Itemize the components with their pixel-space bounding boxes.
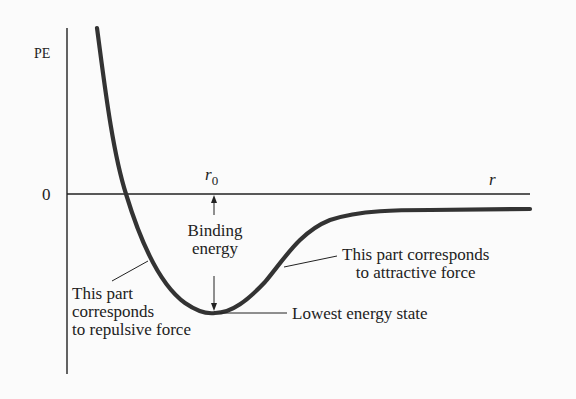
x-axis-label: r	[489, 171, 496, 189]
attractive-line1: This part corresponds	[342, 246, 489, 264]
arrowhead-up-icon	[211, 195, 217, 203]
zero-label: 0	[42, 186, 51, 204]
binding-energy-line2: energy	[177, 240, 253, 258]
y-axis-label: PE	[34, 45, 50, 63]
potential-energy-diagram	[0, 0, 576, 399]
repulsive-line3: to repulsive force	[72, 321, 191, 339]
binding-energy-label: Binding energy	[177, 222, 253, 258]
attractive-force-label: This part corresponds to attractive forc…	[342, 246, 489, 282]
attractive-line2: to attractive force	[342, 264, 489, 282]
attractive-leader	[284, 256, 337, 267]
repulsive-force-label: This part corresponds to repulsive force	[72, 285, 191, 339]
lowest-energy-label: Lowest energy state	[292, 305, 428, 323]
r0-subscript: 0	[212, 173, 219, 188]
r0-label: r0	[205, 166, 218, 185]
binding-energy-line1: Binding	[177, 222, 253, 240]
repulsive-leader	[112, 261, 148, 281]
repulsive-line2: corresponds	[72, 303, 191, 321]
arrowhead-down-icon	[211, 303, 217, 311]
r0-symbol: r	[205, 165, 212, 184]
repulsive-line1: This part	[72, 285, 191, 303]
